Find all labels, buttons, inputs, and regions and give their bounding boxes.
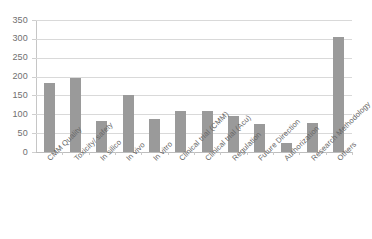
y-tick-label-150: 150 bbox=[12, 91, 28, 100]
y-tick-dash-250 bbox=[32, 58, 36, 59]
y-tick-label-350: 350 bbox=[12, 16, 28, 25]
bar[interactable] bbox=[44, 83, 55, 152]
y-tick-dash-200 bbox=[32, 77, 36, 78]
x-tick-mark bbox=[352, 152, 353, 155]
y-tick-dash-0 bbox=[32, 152, 36, 153]
bar[interactable] bbox=[123, 95, 134, 152]
x-tick-mark bbox=[194, 152, 195, 155]
y-tick-dash-50 bbox=[32, 133, 36, 134]
x-tick-mark bbox=[220, 152, 221, 155]
bar[interactable] bbox=[149, 119, 160, 152]
x-tick-mark bbox=[273, 152, 274, 155]
y-tick-label-0: 0 bbox=[23, 148, 28, 157]
y-tick-dash-150 bbox=[32, 95, 36, 96]
x-tick-mark bbox=[299, 152, 300, 155]
y-tick-label-200: 200 bbox=[12, 72, 28, 81]
x-tick-mark bbox=[62, 152, 63, 155]
y-tick-dash-350 bbox=[32, 20, 36, 21]
y-tick-label-100: 100 bbox=[12, 110, 28, 119]
y-tick-label-250: 250 bbox=[12, 53, 28, 62]
y-tick-dash-300 bbox=[32, 39, 36, 40]
y-axis-tick-labels: 350300250200150100500 bbox=[0, 0, 34, 239]
x-tick-mark bbox=[141, 152, 142, 155]
y-tick-label-50: 50 bbox=[18, 129, 28, 138]
bar[interactable] bbox=[175, 111, 186, 152]
x-tick-mark bbox=[115, 152, 116, 155]
y-tick-label-300: 300 bbox=[12, 34, 28, 43]
y-tick-dash-100 bbox=[32, 114, 36, 115]
